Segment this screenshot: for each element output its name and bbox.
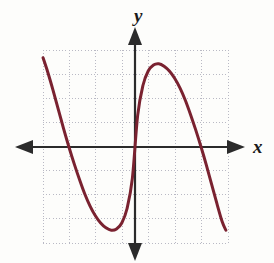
arrow-right-icon bbox=[227, 140, 245, 154]
arrow-up-icon bbox=[128, 27, 142, 45]
arrow-down-icon bbox=[128, 243, 142, 261]
graph-figure: y x bbox=[0, 0, 274, 263]
y-axis-label: y bbox=[134, 6, 142, 25]
x-axis-label: x bbox=[253, 137, 263, 156]
coordinate-plane bbox=[0, 0, 274, 263]
arrow-left-icon bbox=[15, 140, 33, 154]
axes bbox=[15, 27, 245, 261]
